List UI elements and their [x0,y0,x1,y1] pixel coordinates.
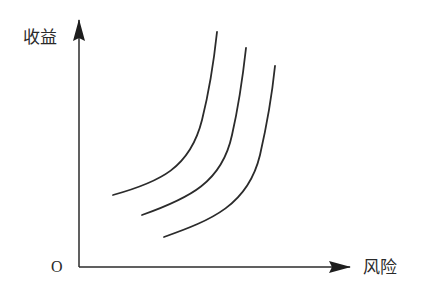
diagram-canvas [0,0,434,294]
curve-3 [164,66,275,237]
origin-label: O [51,259,63,275]
y-axis-label: 收益 [23,29,57,46]
curve-2 [142,48,246,215]
x-axis-label: 风险 [363,259,397,276]
indifference-curves [113,32,275,237]
risk-return-diagram: 收益 O 风险 [0,0,434,294]
curve-1 [113,32,217,195]
